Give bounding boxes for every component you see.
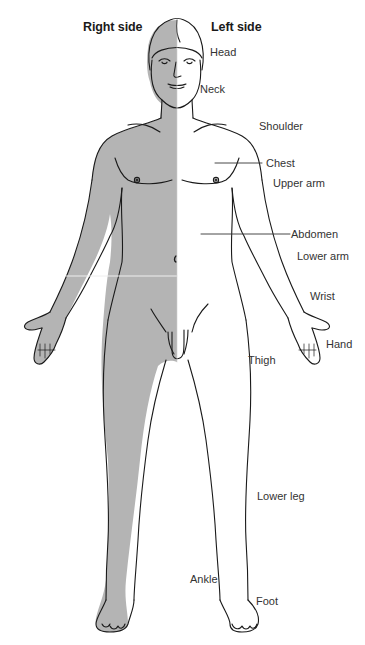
body-regions-diagram: Right side Left side Head Neck Shoulder … bbox=[0, 0, 365, 645]
label-lower-arm: Lower arm bbox=[297, 250, 349, 262]
left-side-header: Left side bbox=[211, 20, 262, 34]
right-side-header: Right side bbox=[83, 20, 142, 34]
label-lower-leg: Lower leg bbox=[257, 490, 305, 502]
label-chest: Chest bbox=[266, 157, 295, 169]
label-hand: Hand bbox=[326, 338, 352, 350]
label-neck: Neck bbox=[200, 83, 225, 95]
label-abdomen: Abdomen bbox=[291, 228, 338, 240]
right-side-shading bbox=[25, 20, 177, 632]
label-head: Head bbox=[210, 46, 236, 58]
figure-outline bbox=[25, 19, 330, 633]
label-foot: Foot bbox=[256, 595, 278, 607]
label-shoulder: Shoulder bbox=[259, 120, 303, 132]
body-outline-illustration bbox=[0, 0, 365, 645]
label-thigh: Thigh bbox=[248, 354, 276, 366]
label-upper-arm: Upper arm bbox=[273, 177, 325, 189]
label-wrist: Wrist bbox=[310, 290, 335, 302]
label-ankle: Ankle bbox=[190, 573, 218, 585]
